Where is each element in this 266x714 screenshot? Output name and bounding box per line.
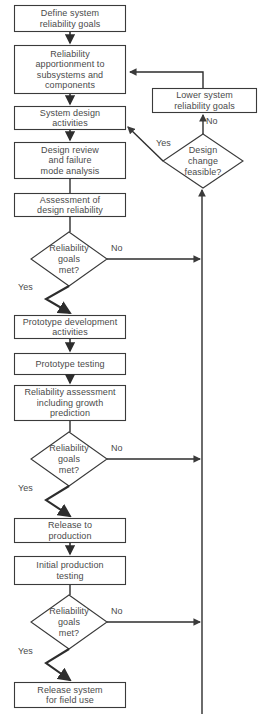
edge-designchange-yes-to-systemdesign (128, 127, 163, 161)
node-box-prototype-development (15, 316, 126, 339)
node-box-release-field (15, 683, 126, 708)
node-box-initial-production-testing (15, 557, 126, 585)
node-diamond-decision-prototype (31, 432, 107, 486)
edge-decision2-yes-to-release (46, 486, 70, 516)
node-box-apportionment (15, 46, 126, 94)
edge-decision3-yes-to-field (46, 649, 70, 680)
node-box-release-production (15, 519, 126, 543)
node-diamond-decision-design (31, 232, 107, 286)
flowchart-canvas: Define system reliability goals Reliabil… (0, 0, 266, 714)
edge-lowergoals-to-apportionment (130, 72, 203, 88)
node-box-prototype-testing (15, 354, 126, 375)
node-box-assessment (15, 194, 126, 217)
node-box-define-goals (15, 6, 126, 32)
node-box-design-review (15, 143, 126, 179)
node-box-lower-goals (153, 89, 257, 113)
node-diamond-decision-production (31, 595, 107, 649)
edge-decision1-yes-to-prototype (46, 286, 70, 313)
node-box-system-design (15, 107, 126, 130)
node-box-reliability-assessment (15, 386, 126, 421)
node-diamond-decision-design-change (163, 134, 243, 188)
flowchart-graphics (0, 0, 266, 714)
